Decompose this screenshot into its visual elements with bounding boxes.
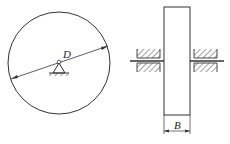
- arrowhead-left-icon: [11, 75, 18, 79]
- ground-hatch: [49, 73, 69, 76]
- diameter-label: D: [62, 48, 71, 60]
- side-view: B: [130, 7, 224, 134]
- diagram-canvas: D B: [0, 0, 230, 144]
- arrowhead-width-right-icon: [185, 130, 190, 133]
- arrowhead-width-left-icon: [164, 130, 169, 133]
- arrowhead-right-icon: [101, 46, 108, 50]
- width-label: B: [174, 119, 181, 131]
- front-view: D: [8, 12, 110, 114]
- disk-side-rectangle: [164, 7, 190, 115]
